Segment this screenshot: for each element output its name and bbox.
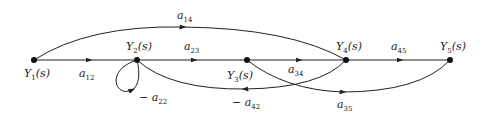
node-y1 bbox=[31, 57, 37, 63]
node-label-y1: Y1(s) bbox=[24, 68, 50, 82]
gain-label-a22: − a22 bbox=[139, 92, 167, 106]
node-label-y2: Y2(s) bbox=[126, 41, 152, 55]
gain-label-a23: a23 bbox=[184, 41, 199, 55]
node-y3 bbox=[244, 57, 250, 63]
node-y5 bbox=[447, 57, 453, 63]
node-label-y3: Y3(s) bbox=[227, 70, 253, 84]
edge-a14 bbox=[34, 27, 183, 60]
node-y2 bbox=[134, 57, 140, 63]
edge-a22-self-loop bbox=[116, 60, 137, 91]
gain-label-a35: a35 bbox=[337, 99, 352, 113]
gain-label-a14: a14 bbox=[177, 10, 192, 24]
gain-label-a45: a45 bbox=[391, 41, 406, 55]
gain-label-a12: a12 bbox=[79, 68, 94, 82]
node-y4 bbox=[343, 57, 349, 63]
node-label-y4: Y4(s) bbox=[336, 41, 362, 55]
node-label-y5: Y5(s) bbox=[440, 41, 466, 55]
gain-label-a42: − a42 bbox=[232, 97, 260, 111]
gain-label-a34: a34 bbox=[288, 64, 303, 78]
